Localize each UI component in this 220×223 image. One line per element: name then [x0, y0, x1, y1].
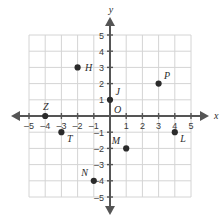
x-axis-tick-label: –4	[40, 121, 50, 131]
x-axis-label: x	[213, 110, 219, 121]
y-axis-tick-label: –3	[94, 160, 104, 170]
y-axis-tick-label: 4	[99, 47, 104, 57]
x-axis-tick-label: 5	[188, 121, 193, 131]
data-point-l	[172, 129, 178, 135]
x-axis-arrow-right	[200, 111, 209, 121]
point-label-p: P	[163, 70, 170, 81]
y-axis-tick-label: 3	[99, 63, 104, 73]
data-point-m	[123, 145, 129, 151]
x-axis-tick-label: –5	[24, 121, 34, 131]
point-label-z: Z	[43, 101, 49, 112]
y-axis-tick-label: 2	[99, 79, 104, 89]
x-axis-arrow-left	[11, 111, 20, 121]
data-point-j	[107, 97, 113, 103]
point-label-m: M	[111, 135, 121, 146]
y-axis-label: y	[108, 4, 114, 15]
x-axis-tick-label: 2	[140, 121, 145, 131]
data-point-h	[75, 64, 81, 70]
y-axis-arrow-up	[105, 17, 115, 26]
point-label-j: J	[116, 86, 121, 97]
point-label-l: L	[179, 133, 186, 144]
point-label-n: N	[80, 167, 89, 178]
coordinate-plane-svg: –5–4–3–2–112345–5–4–3–2–112345O HZTJPLMN…	[0, 0, 220, 223]
coordinate-plane-figure: –5–4–3–2–112345–5–4–3–2–112345O HZTJPLMN…	[0, 0, 220, 223]
axes	[11, 17, 209, 215]
data-point-z	[42, 113, 48, 119]
data-point-n	[91, 178, 97, 184]
y-axis-tick-label: –2	[94, 144, 104, 154]
origin-label: O	[114, 104, 121, 115]
axis-name-labels: xy	[108, 4, 219, 121]
y-axis-arrow-down	[105, 206, 115, 215]
x-axis-tick-label: 3	[156, 121, 161, 131]
point-label-h: H	[84, 62, 93, 73]
data-point-t	[58, 129, 64, 135]
y-axis-tick-label: 5	[99, 31, 104, 41]
y-axis-tick-label: –1	[94, 128, 104, 138]
point-label-t: T	[67, 133, 74, 144]
y-axis-tick-label: –5	[94, 193, 104, 203]
x-axis-tick-label: 1	[124, 121, 129, 131]
data-point-p	[156, 81, 162, 87]
y-axis-tick-label: 1	[99, 95, 104, 105]
x-axis-tick-label: –2	[73, 121, 83, 131]
